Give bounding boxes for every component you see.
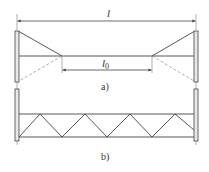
left-post-b: [15, 89, 19, 141]
left-upper-tie: [19, 32, 62, 57]
overall-dimension: l: [17, 7, 196, 30]
right-lower-dashed-tie: [152, 56, 194, 81]
diagram: l l0 a): [0, 0, 209, 172]
right-upper-tie: [152, 32, 194, 57]
left-post-a: [15, 31, 19, 82]
dimension-label-l0: l0: [102, 57, 109, 71]
l0-subscript: 0: [105, 62, 109, 71]
dimension-label-l: l: [107, 7, 110, 19]
part-b: b): [15, 86, 198, 163]
left-lower-dashed-tie: [19, 56, 62, 81]
caption-b: b): [101, 151, 109, 163]
right-post-a: [194, 31, 198, 82]
part-a: l l0 a): [15, 7, 198, 93]
caption-a: a): [101, 81, 109, 93]
right-post-b: [194, 89, 198, 141]
truss-web-zigzag: [19, 114, 194, 137]
inner-dimension: l0: [62, 56, 152, 73]
